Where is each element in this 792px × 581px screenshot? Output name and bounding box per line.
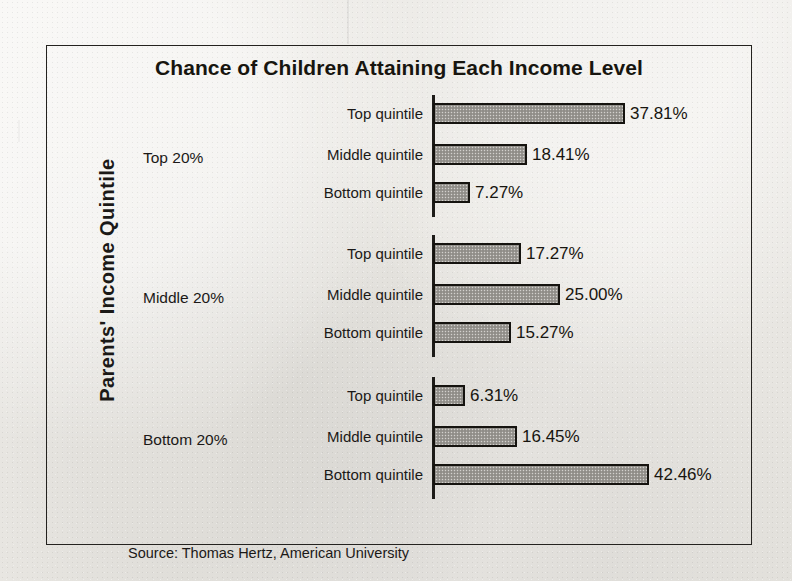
bar-row: Bottom quintile 42.46% — [46, 462, 752, 488]
bar-row: Top quintile 37.81% — [46, 101, 752, 127]
source-note: Source: Thomas Hertz, American Universit… — [128, 545, 409, 561]
bar-value-label: 17.27% — [526, 241, 584, 267]
scan-artifact-left — [18, 120, 20, 142]
category-label: Bottom quintile — [226, 462, 423, 488]
bar-row: Middle quintile 16.45% — [46, 424, 752, 450]
plot-area: Top 20% Top quintile 37.81% Middle quint… — [46, 45, 752, 545]
category-label: Bottom quintile — [226, 180, 423, 206]
bar-value-label: 7.27% — [475, 180, 523, 206]
bar-group-top-20: Top 20% Top quintile 37.81% Middle quint… — [46, 91, 752, 216]
bar-row: Top quintile 6.31% — [46, 383, 752, 409]
bar-row: Middle quintile 18.41% — [46, 142, 752, 168]
bar-value-label: 15.27% — [516, 320, 574, 346]
category-label: Top quintile — [226, 383, 423, 409]
bar-value-label: 37.81% — [630, 101, 688, 127]
bar-rect[interactable] — [433, 243, 521, 264]
bar-rect[interactable] — [433, 144, 527, 165]
scan-artifact-top — [347, 0, 349, 44]
bar-row: Bottom quintile 15.27% — [46, 320, 752, 346]
category-label: Bottom quintile — [226, 320, 423, 346]
bar-rect[interactable] — [433, 182, 470, 203]
bar-value-label: 25.00% — [565, 282, 623, 308]
bar-rect[interactable] — [433, 464, 649, 485]
category-label: Middle quintile — [226, 142, 423, 168]
bar-rect[interactable] — [433, 103, 625, 124]
bar-value-label: 42.46% — [654, 462, 712, 488]
category-label: Top quintile — [226, 101, 423, 127]
bar-group-bottom-20: Bottom 20% Top quintile 6.31% Middle qui… — [46, 373, 752, 498]
category-label: Middle quintile — [226, 282, 423, 308]
bar-row: Bottom quintile 7.27% — [46, 180, 752, 206]
bar-row: Top quintile 17.27% — [46, 241, 752, 267]
bar-rect[interactable] — [433, 284, 560, 305]
bar-group-middle-20: Middle 20% Top quintile 17.27% Middle qu… — [46, 231, 752, 356]
category-label: Middle quintile — [226, 424, 423, 450]
bar-value-label: 18.41% — [532, 142, 590, 168]
bar-row: Middle quintile 25.00% — [46, 282, 752, 308]
category-label: Top quintile — [226, 241, 423, 267]
bar-rect[interactable] — [433, 426, 517, 447]
bar-rect[interactable] — [433, 385, 465, 406]
bar-rect[interactable] — [433, 322, 511, 343]
bar-value-label: 6.31% — [470, 383, 518, 409]
bar-value-label: 16.45% — [522, 424, 580, 450]
